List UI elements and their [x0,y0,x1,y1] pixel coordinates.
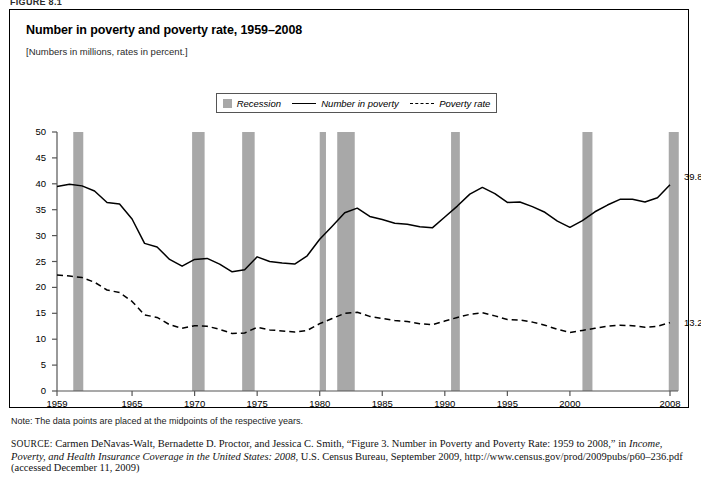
x-axis-tick-label: 1965 [112,398,152,409]
recession-band [73,132,83,391]
figure-label: FIGURE 8.1 [10,0,62,7]
y-axis-tick-label: 50 [24,126,46,137]
chart-plot-area [10,10,690,409]
y-axis-tick-label: 25 [24,256,46,267]
chart-source: SOURCE: Carmen DeNavas-Walt, Bernadette … [11,438,691,474]
recession-band [669,132,679,391]
y-axis-tick-label: 35 [24,204,46,215]
y-axis-tick-label: 30 [24,230,46,241]
x-axis-tick-label: 1985 [362,398,402,409]
recession-band [337,132,355,391]
y-axis-tick-label: 45 [24,152,46,163]
source-part1: Carmen DeNavas-Walt, Bernadette D. Proct… [53,438,629,449]
x-axis-tick-label: 1959 [37,398,77,409]
source-prefix: SOURCE: [11,439,53,449]
series-line-number-in-poverty [57,184,670,272]
recession-band [451,132,460,391]
recession-band [192,132,205,391]
x-axis-tick-label: 1995 [487,398,527,409]
y-axis-tick-label: 40 [24,178,46,189]
x-axis-tick-label: 2008 [650,398,690,409]
x-axis-tick-label: 1975 [237,398,277,409]
series-line-poverty-rate [57,275,670,334]
x-axis-tick-label: 2000 [550,398,590,409]
recession-band [582,132,592,391]
y-axis-tick-label: 15 [24,307,46,318]
annotation-poverty-rate: 13.2 percent [684,317,701,328]
chart-figure-card: Number in poverty and poverty rate, 1959… [9,9,689,408]
y-axis-tick-label: 10 [24,333,46,344]
chart-note: Note: The data points are placed at the … [11,416,303,426]
recession-band [320,132,326,391]
x-axis-tick-label: 1990 [425,398,465,409]
annotation-number-in-poverty: 39.8 million [684,171,701,182]
y-axis-tick-label: 20 [24,281,46,292]
x-axis-tick-label: 1970 [175,398,215,409]
x-axis-tick-label: 1980 [300,398,340,409]
y-axis-tick-label: 5 [24,359,46,370]
y-axis-tick-label: 0 [24,385,46,396]
